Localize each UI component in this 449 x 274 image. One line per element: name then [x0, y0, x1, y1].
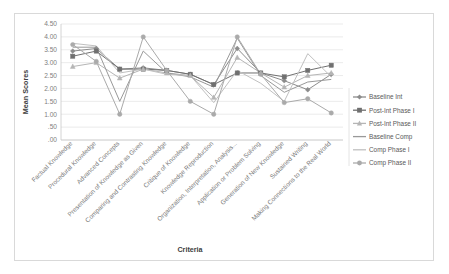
data-point-marker	[259, 72, 263, 76]
y-axis-tick-labels: 4.504.003.503.002.502.001.501.00.50.00	[44, 20, 57, 143]
legend-entry-label: Post-Int Phase II	[369, 120, 416, 127]
legend-marker	[357, 94, 362, 99]
data-point-marker	[118, 112, 122, 116]
data-point-marker	[235, 71, 239, 75]
y-tick-label: .50	[48, 123, 57, 130]
mean-scores-line-chart: 4.504.003.503.002.502.001.501.00.50.00 F…	[15, 14, 433, 260]
y-tick-label: 3.00	[44, 59, 57, 66]
data-point-marker	[188, 99, 192, 103]
legend-marker	[357, 161, 362, 166]
data-point-marker	[235, 35, 239, 39]
data-point-marker	[306, 68, 310, 72]
x-axis-category-labels: Factual KnowledgeProcedural KnowledgeAdv…	[30, 139, 333, 224]
chart-legend: Baseline IntPost-Int Phase IPost-Int Pha…	[349, 88, 416, 167]
x-axis-title: Criteria	[177, 245, 203, 254]
data-point-marker	[94, 49, 98, 53]
data-point-marker	[71, 54, 75, 58]
legend-entry-label: Baseline Comp	[369, 133, 413, 141]
y-tick-label: 1.00	[44, 111, 57, 118]
series-line	[73, 51, 332, 85]
legend-marker	[357, 108, 362, 113]
data-point-marker	[141, 35, 145, 39]
y-tick-label: 3.50	[44, 46, 57, 53]
data-point-marker	[329, 63, 333, 67]
legend-entry-label: Post-Int Phase I	[369, 107, 415, 114]
y-tick-label: 1.50	[44, 98, 57, 105]
data-point-marker	[282, 100, 286, 104]
x-category-label: Advanced Concepts	[75, 140, 121, 186]
data-point-marker	[282, 75, 286, 79]
data-point-marker	[165, 68, 169, 72]
y-tick-label: 2.00	[44, 85, 57, 92]
data-point-marker	[212, 112, 216, 116]
data-point-marker	[235, 55, 240, 60]
y-tick-label: 4.50	[44, 20, 57, 27]
y-tick-label: 2.50	[44, 72, 57, 79]
legend-entry-label: Comp Phase II	[369, 159, 411, 167]
x-category-label: Factual Knowledge	[30, 139, 74, 183]
data-point-marker	[70, 49, 75, 54]
data-point-marker	[329, 111, 333, 115]
y-tick-label: .00	[48, 136, 57, 143]
data-point-marker	[212, 82, 216, 86]
data-point-marker	[306, 97, 310, 101]
data-point-marker	[94, 59, 98, 63]
chart-frame: 4.504.003.503.002.502.001.501.00.50.00 F…	[14, 13, 434, 261]
series-line	[73, 38, 332, 101]
y-tick-label: 4.00	[44, 33, 57, 40]
data-point-marker	[118, 67, 122, 71]
legend-entry-label: Comp Phase I	[369, 146, 410, 154]
data-point-marker	[329, 70, 334, 75]
y-axis-title: Mean Scores	[21, 70, 30, 114]
legend-entry-label: Baseline Int	[369, 93, 403, 100]
data-point-marker	[71, 42, 75, 46]
